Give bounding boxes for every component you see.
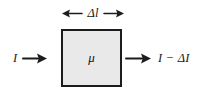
- incident-beam-group: I: [13, 46, 59, 70]
- transmitted-intensity-label: I − ΔI: [158, 52, 190, 65]
- arrow-right-icon: [125, 52, 152, 65]
- arrow-right-icon: [103, 8, 125, 19]
- incident-intensity-label: I: [13, 52, 17, 65]
- attenuation-coefficient-label: μ: [88, 51, 95, 64]
- beam-attenuation-diagram: Δl I μ I − ΔI: [0, 0, 206, 97]
- arrow-left-icon: [61, 8, 83, 19]
- medium-box: μ: [61, 29, 122, 87]
- thickness-label-text: Δl: [87, 7, 98, 20]
- thickness-dimension-label: Δl: [52, 2, 134, 24]
- transmitted-beam-group: I − ΔI: [125, 46, 205, 70]
- arrow-right-icon: [22, 52, 48, 65]
